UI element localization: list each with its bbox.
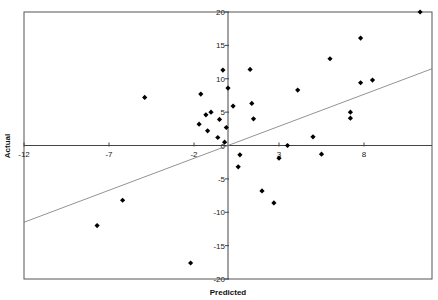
- y-tick-label: 15: [216, 41, 225, 50]
- y-tick-label: 10: [216, 75, 225, 84]
- y-axis-title: Actual: [3, 134, 12, 158]
- x-axis-title: Predicted: [210, 288, 247, 297]
- y-tick-label: -20: [213, 275, 225, 284]
- x-tick-label: -12: [18, 150, 30, 159]
- x-tick-label: 8: [362, 150, 367, 159]
- y-tick-label: -15: [213, 242, 225, 251]
- y-tick-label: 20: [216, 8, 225, 17]
- y-tick-label: -5: [218, 175, 226, 184]
- y-tick-label: 5: [221, 108, 226, 117]
- x-tick-label: -7: [105, 150, 113, 159]
- scatter-chart: -12-7-238-20-15-10-505101520 Predicted A…: [0, 0, 438, 300]
- y-tick-label: -10: [213, 208, 225, 217]
